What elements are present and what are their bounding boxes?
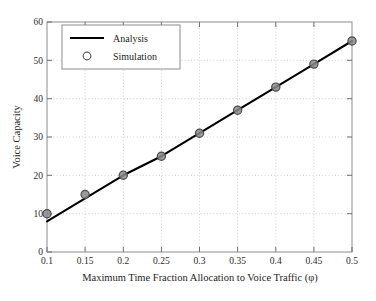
x-tick-label-3: 0.25 bbox=[153, 256, 170, 266]
data-point bbox=[157, 152, 165, 160]
y-tick-label-10: 10 bbox=[34, 209, 44, 219]
data-point bbox=[310, 60, 318, 68]
legend-analysis-label: Analysis bbox=[113, 33, 148, 44]
x-tick-label-0: 0.1 bbox=[41, 256, 53, 266]
x-tick-label-2: 0.2 bbox=[117, 256, 129, 266]
y-tick-label-30: 30 bbox=[34, 132, 44, 142]
x-tick-label-8: 0.5 bbox=[346, 256, 358, 266]
x-axis-title: Maximum Time Fraction Allocation to Voic… bbox=[82, 272, 318, 284]
x-tick-label-1: 0.15 bbox=[77, 256, 94, 266]
y-tick-label-50: 50 bbox=[34, 56, 44, 66]
data-point bbox=[195, 129, 203, 137]
y-tick-label-60: 60 bbox=[34, 17, 44, 27]
data-point bbox=[348, 37, 356, 45]
x-tick-label-7: 0.45 bbox=[306, 256, 323, 266]
legend-simulation-label: Simulation bbox=[113, 51, 157, 62]
data-point bbox=[43, 210, 51, 218]
chart-figure: 0 10 20 30 40 50 60 0.1 0.15 0.2 0.25 0.… bbox=[0, 0, 376, 301]
data-point bbox=[234, 106, 242, 114]
chart-canvas: 0 10 20 30 40 50 60 0.1 0.15 0.2 0.25 0.… bbox=[0, 0, 376, 301]
x-tick-label-6: 0.4 bbox=[270, 256, 282, 266]
data-point bbox=[119, 171, 127, 179]
legend: Analysis Simulation bbox=[62, 25, 180, 69]
data-point bbox=[272, 83, 280, 91]
y-axis-title: Voice Capacity bbox=[11, 104, 22, 168]
x-tick-label-5: 0.35 bbox=[229, 256, 246, 266]
data-point bbox=[81, 190, 89, 198]
x-tick-label-4: 0.3 bbox=[194, 256, 206, 266]
y-tick-label-40: 40 bbox=[34, 94, 44, 104]
y-tick-label-20: 20 bbox=[34, 171, 44, 181]
